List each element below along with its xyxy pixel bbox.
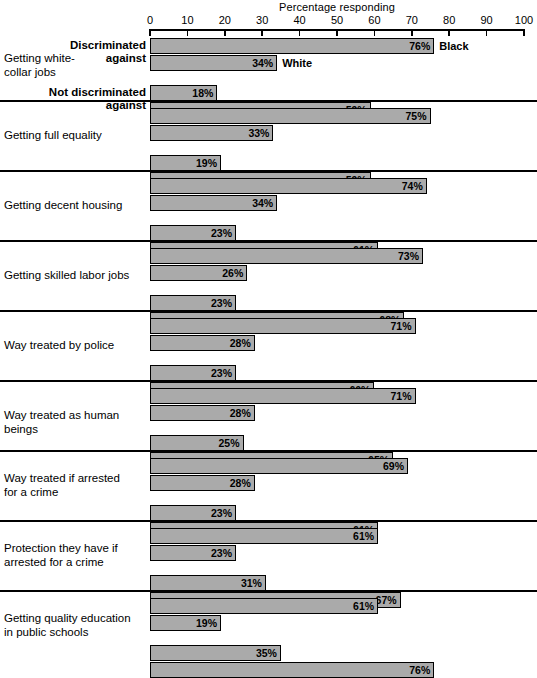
x-tick-label: 80 xyxy=(443,14,455,26)
bar-value-label: 33% xyxy=(248,128,269,139)
bar: 33% xyxy=(150,125,273,141)
bar-value-label: 69% xyxy=(383,461,404,472)
category-label: Way treated as human beings xyxy=(4,409,146,436)
category-label: Way treated by police xyxy=(4,339,146,353)
group-separator xyxy=(0,170,537,172)
category-label: Way treated if arrested for a crime xyxy=(4,472,146,499)
chart-group: Getting skilled labor jobs73%26%23%68% xyxy=(0,240,537,310)
bar-value-label: 34% xyxy=(252,58,273,69)
subgroup-label-discriminated: Discriminated against xyxy=(0,39,146,65)
category-label: Protection they have if arrested for a c… xyxy=(4,542,146,569)
bar: 69% xyxy=(150,458,408,474)
bar-value-label: 61% xyxy=(353,601,374,612)
group-separator xyxy=(0,240,537,242)
category-label: Getting quality education in public scho… xyxy=(4,612,146,639)
chart-group: Way treated as human beings71%28%25%65% xyxy=(0,380,537,450)
bar: 35% xyxy=(150,645,281,661)
chart-group: Getting decent housing74%34%23%61% xyxy=(0,170,537,240)
bar-value-label: 61% xyxy=(353,531,374,542)
bar: 25% xyxy=(150,435,244,451)
group-separator xyxy=(0,590,537,592)
bar-value-label: 28% xyxy=(230,338,251,349)
bar-value-label: 28% xyxy=(230,478,251,489)
x-tick-label: 40 xyxy=(293,14,305,26)
bar-value-label: 31% xyxy=(241,578,262,589)
category-label: Getting full equality xyxy=(4,129,146,143)
bar-value-label: 23% xyxy=(211,228,232,239)
x-tick-label: 0 xyxy=(147,14,153,26)
x-axis-tick-labels: 0102030405060708090100 xyxy=(0,14,537,27)
bar-value-label: 23% xyxy=(211,368,232,379)
x-tick-label: 70 xyxy=(406,14,418,26)
bar-value-label: 76% xyxy=(409,41,430,52)
bar: 61% xyxy=(150,528,378,544)
chart-axis-title: Percentage responding xyxy=(150,1,524,13)
group-separator xyxy=(0,520,537,522)
category-label: Getting skilled labor jobs xyxy=(4,269,146,283)
bar: 73% xyxy=(150,248,423,264)
bar-value-label: 25% xyxy=(218,438,239,449)
bar: 23% xyxy=(150,295,236,311)
bar-value-label: 19% xyxy=(196,618,217,629)
chart-group: Getting full equality75%33%19%59% xyxy=(0,100,537,170)
chart-group: Getting white- collar jobs76%34%18%59%Di… xyxy=(0,30,537,100)
chart-group: Way treated if arrested for a crime69%28… xyxy=(0,450,537,520)
bar: 23% xyxy=(150,505,236,521)
bar: 71% xyxy=(150,388,416,404)
bar-value-label: 18% xyxy=(192,88,213,99)
legend-label-black: Black xyxy=(439,40,468,52)
group-separator xyxy=(0,380,537,382)
bar-value-label: 34% xyxy=(252,198,273,209)
bar-value-label: 74% xyxy=(402,181,423,192)
group-separator xyxy=(0,310,537,312)
bar-value-label: 28% xyxy=(230,408,251,419)
bar: 18% xyxy=(150,85,217,101)
legend-label-white: White xyxy=(282,57,312,69)
x-tick-label: 100 xyxy=(515,14,533,26)
bar-value-label: 35% xyxy=(256,648,277,659)
bar: 28% xyxy=(150,335,255,351)
bar-value-label: 23% xyxy=(211,298,232,309)
bar-value-label: 71% xyxy=(391,321,412,332)
bar: 76% xyxy=(150,662,434,678)
x-tick-label: 60 xyxy=(368,14,380,26)
bar-value-label: 73% xyxy=(398,251,419,262)
bar: 28% xyxy=(150,475,255,491)
group-separator xyxy=(0,450,537,452)
x-tick-label: 90 xyxy=(480,14,492,26)
bar-value-label: 26% xyxy=(222,268,243,279)
x-tick-label: 20 xyxy=(219,14,231,26)
bar: 34% xyxy=(150,195,277,211)
bar: 23% xyxy=(150,365,236,381)
bar: 75% xyxy=(150,108,431,124)
bar: 23% xyxy=(150,225,236,241)
bar-value-label: 75% xyxy=(405,111,426,122)
bar: 71% xyxy=(150,318,416,334)
chart-group: Protection they have if arrested for a c… xyxy=(0,520,537,590)
x-tick-label: 30 xyxy=(256,14,268,26)
bar: 31% xyxy=(150,575,266,591)
bar: 19% xyxy=(150,155,221,171)
group-separator xyxy=(0,100,537,102)
bar: 19% xyxy=(150,615,221,631)
bar: 34% xyxy=(150,55,277,71)
chart-group: Way treated by police71%28%23%60% xyxy=(0,310,537,380)
bar: 23% xyxy=(150,545,236,561)
bar-value-label: 23% xyxy=(211,548,232,559)
x-tick-label: 10 xyxy=(181,14,193,26)
bar: 61% xyxy=(150,598,378,614)
x-tick-label: 50 xyxy=(331,14,343,26)
bar: 28% xyxy=(150,405,255,421)
bar-value-label: 23% xyxy=(211,508,232,519)
chart-group: Getting quality education in public scho… xyxy=(0,590,537,660)
bar: 76% xyxy=(150,38,434,54)
bar-value-label: 71% xyxy=(391,391,412,402)
bar: 74% xyxy=(150,178,427,194)
bar-value-label: 76% xyxy=(409,665,430,676)
category-label: Getting decent housing xyxy=(4,199,146,213)
bar-value-label: 19% xyxy=(196,158,217,169)
bar: 26% xyxy=(150,265,247,281)
